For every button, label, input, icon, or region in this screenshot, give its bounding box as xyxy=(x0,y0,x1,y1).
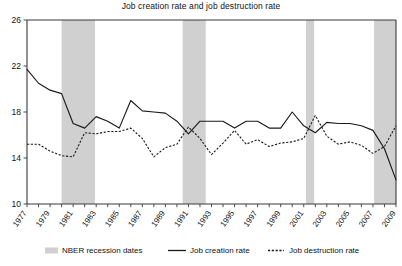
x-tick-label: 1979 xyxy=(34,209,52,229)
x-tick-label: 1997 xyxy=(242,209,260,229)
x-tick-label: 2001 xyxy=(288,209,306,229)
y-tick-label: 10 xyxy=(12,199,22,209)
x-tick-label: 1989 xyxy=(149,209,167,229)
legend-label-job-creation: Job creation rate xyxy=(190,246,250,255)
x-tick-label: 1993 xyxy=(196,209,214,229)
x-tick-label: 1983 xyxy=(80,209,98,229)
recession-bands-group xyxy=(62,20,396,204)
recession-band xyxy=(62,20,95,204)
x-tick-label: 1985 xyxy=(103,209,121,229)
y-tick-label: 18 xyxy=(12,107,22,117)
x-tick-label: 1995 xyxy=(219,209,237,229)
chart-container: Job creation rate and job destruction ra… xyxy=(0,0,402,266)
x-tick-label: 1981 xyxy=(57,209,75,229)
x-tick-label: 2005 xyxy=(334,209,352,229)
legend-swatch-recession xyxy=(45,248,58,254)
legend-label-job-destruction: Job destruction rate xyxy=(289,246,360,255)
y-tick-label: 22 xyxy=(12,61,22,71)
x-tick-label: 2003 xyxy=(311,209,329,229)
x-tick-label: 2009 xyxy=(380,209,398,229)
y-tick-label: 14 xyxy=(12,153,22,163)
legend-label-recession: NBER recession dates xyxy=(62,246,142,255)
x-axis-labels: 1977197919811983198519871989199119931995… xyxy=(11,209,398,229)
x-tick-label: 1987 xyxy=(126,209,144,229)
chart-legend: NBER recession datesJob creation rateJob… xyxy=(45,246,360,255)
chart-plot-area: 1014182226 19771979198119831985198719891… xyxy=(0,0,402,266)
recession-band xyxy=(306,20,314,204)
y-axis-labels: 1014182226 xyxy=(12,15,22,209)
recession-band xyxy=(183,20,206,204)
x-tick-label: 2007 xyxy=(357,209,375,229)
x-tick-label: 1991 xyxy=(172,209,190,229)
recession-band xyxy=(374,20,396,204)
x-tick-label: 1977 xyxy=(11,209,29,229)
x-tick-label: 1999 xyxy=(265,209,283,229)
y-tick-label: 26 xyxy=(12,15,22,25)
